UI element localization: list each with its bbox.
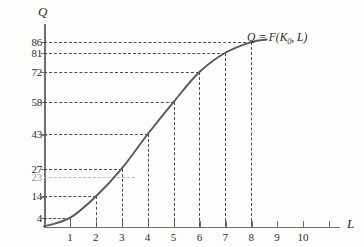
- production-function-chart: Q L 8681725843272314412345678910 Q = F(K…: [0, 0, 364, 247]
- production-curve-path: [44, 39, 267, 226]
- curve-label: Q = F(K0, L): [247, 31, 307, 46]
- production-curve-svg: [0, 0, 364, 247]
- curve-label-prefix: Q = F(K: [247, 31, 287, 43]
- curve-label-suffix: , L): [291, 31, 307, 43]
